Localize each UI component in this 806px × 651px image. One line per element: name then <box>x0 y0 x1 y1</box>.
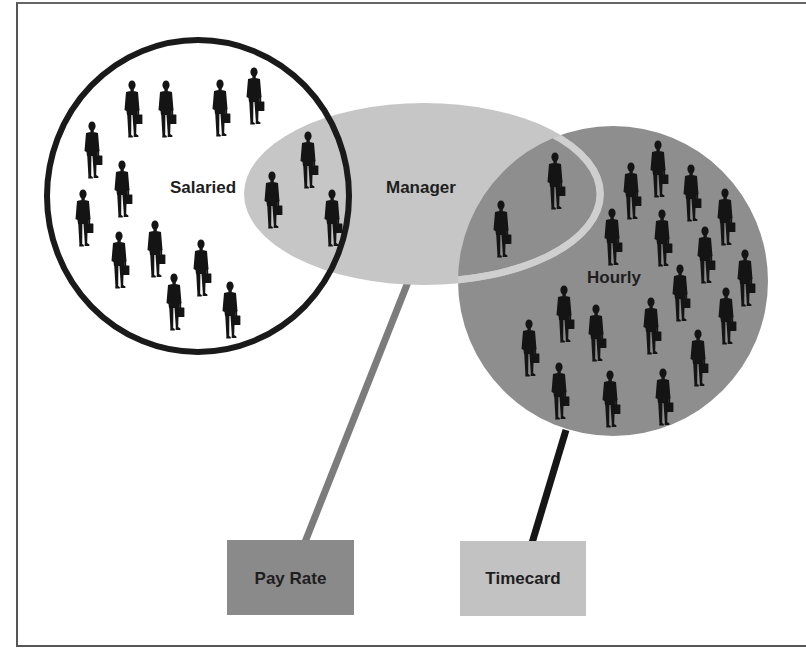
person-icon <box>125 80 143 137</box>
person-icon <box>223 281 241 338</box>
person-icon <box>148 220 166 277</box>
pay-rate-label: Pay Rate <box>255 569 327 588</box>
person-icon <box>159 80 177 137</box>
hourly-label: Hourly <box>587 268 641 287</box>
person-icon <box>194 239 212 296</box>
salaried-label: Salaried <box>170 178 236 197</box>
pay-rate-connector-line <box>305 282 408 542</box>
timecard-connector-line <box>532 430 566 543</box>
person-icon <box>112 231 130 288</box>
person-icon <box>213 79 231 136</box>
timecard-box[interactable]: Timecard <box>460 541 586 616</box>
pay-rate-box[interactable]: Pay Rate <box>227 540 354 615</box>
person-icon <box>167 273 185 330</box>
person-icon <box>85 121 103 178</box>
person-icon <box>247 67 265 124</box>
person-icon <box>115 160 133 217</box>
manager-label: Manager <box>386 178 456 197</box>
salaried-figures <box>76 67 265 338</box>
person-icon <box>76 189 94 246</box>
timecard-label: Timecard <box>485 569 560 588</box>
